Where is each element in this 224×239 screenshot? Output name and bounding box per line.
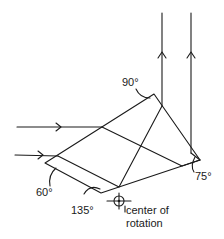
internal-ray-upper	[102, 127, 200, 166]
incoming-ray-lower	[15, 155, 58, 156]
angle-leader-90	[136, 89, 150, 98]
angle-leader-60	[50, 168, 56, 186]
angle-label-right: 75°	[195, 170, 212, 182]
internal-ray-lower	[58, 106, 162, 187]
angle-label-left: 60°	[36, 186, 53, 198]
prism-outline	[45, 94, 200, 193]
center-label-line2: rotation	[126, 217, 163, 229]
arrowhead-icon	[38, 151, 43, 159]
angle-label-bottom: 135°	[71, 204, 94, 216]
angle-label-top: 90°	[122, 76, 139, 88]
prism-diagram: 90° 60° 135° 75° center of rotation	[0, 0, 224, 239]
center-label-line1: center of	[126, 204, 170, 216]
